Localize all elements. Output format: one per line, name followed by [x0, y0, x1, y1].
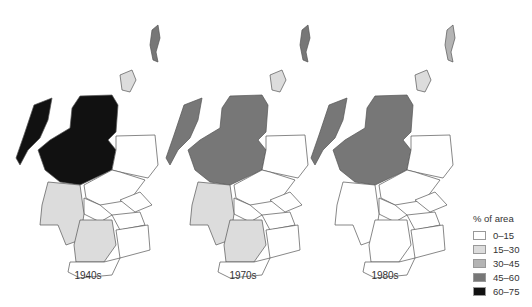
region-orkney [120, 70, 136, 92]
legend-swatch [473, 231, 486, 240]
region-borders [411, 225, 445, 258]
legend-swatch [473, 245, 486, 254]
region-orkney [415, 70, 431, 92]
map-caption-1980s: 1980s [345, 270, 425, 281]
legend-title: % of area [473, 213, 519, 224]
legend-item: 0–15 [473, 228, 519, 242]
legend-label: 15–30 [493, 244, 519, 255]
legend-label: 0–15 [493, 230, 514, 241]
legend-item: 45–60 [473, 270, 519, 284]
legend-label: 60–75 [493, 286, 519, 297]
region-borders [116, 225, 150, 258]
region-orkney [270, 70, 286, 92]
legend-item: 60–75 [473, 284, 519, 298]
legend-item: 15–30 [473, 242, 519, 256]
region-shetland [445, 25, 455, 62]
legend-swatch [473, 259, 486, 268]
map-caption-1940s: 1940s [48, 270, 128, 281]
legend-swatch [473, 287, 486, 296]
legend-label: 30–45 [493, 258, 519, 269]
legend-swatch [473, 273, 486, 282]
map-caption-1970s: 1970s [203, 270, 283, 281]
region-strathclyde_south [224, 220, 266, 262]
legend-item: 30–45 [473, 256, 519, 270]
region-strathclyde_south [74, 220, 116, 262]
legend: % of area 0–15 15–30 30–45 45–60 60–75 [473, 213, 519, 298]
legend-label: 45–60 [493, 272, 519, 283]
scotland-map-1980s [295, 0, 475, 307]
region-strathclyde_south [369, 220, 411, 262]
